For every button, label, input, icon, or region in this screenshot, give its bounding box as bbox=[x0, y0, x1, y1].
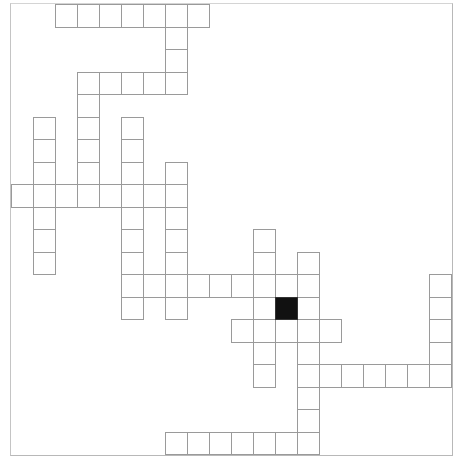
grid-cell[interactable] bbox=[341, 364, 364, 388]
grid-cell[interactable] bbox=[297, 364, 320, 388]
grid-cell[interactable] bbox=[429, 342, 452, 365]
grid-cell[interactable] bbox=[121, 72, 144, 95]
grid-cell[interactable] bbox=[297, 252, 320, 275]
grid-cell[interactable] bbox=[121, 4, 144, 28]
grid-cell[interactable] bbox=[231, 432, 254, 455]
grid-cell[interactable] bbox=[165, 72, 188, 95]
grid-cell[interactable] bbox=[253, 229, 276, 253]
grid-cell[interactable] bbox=[33, 207, 56, 230]
grid-cell[interactable] bbox=[253, 432, 276, 455]
grid-cell[interactable] bbox=[33, 252, 56, 275]
grid-cell[interactable] bbox=[121, 297, 144, 320]
crossword-grid bbox=[0, 0, 459, 466]
grid-cell[interactable] bbox=[143, 72, 166, 95]
grid-cell[interactable] bbox=[121, 207, 144, 230]
grid-cell[interactable] bbox=[77, 139, 100, 163]
grid-cell[interactable] bbox=[99, 72, 122, 95]
grid-cell[interactable] bbox=[297, 432, 320, 455]
grid-cell[interactable] bbox=[297, 274, 320, 298]
grid-cell[interactable] bbox=[33, 117, 56, 140]
grid-cell[interactable] bbox=[143, 4, 166, 28]
grid-cell[interactable] bbox=[33, 229, 56, 253]
grid-cell[interactable] bbox=[77, 117, 100, 140]
grid-cell[interactable] bbox=[319, 319, 342, 343]
grid-cell[interactable] bbox=[429, 274, 452, 298]
grid-cell[interactable] bbox=[55, 184, 78, 208]
grid-cell[interactable] bbox=[121, 229, 144, 253]
grid-cell[interactable] bbox=[55, 4, 78, 28]
grid-cell[interactable] bbox=[253, 252, 276, 275]
grid-cell[interactable] bbox=[253, 364, 276, 388]
grid-cell[interactable] bbox=[187, 432, 210, 455]
grid-cell[interactable] bbox=[121, 162, 144, 185]
grid-cell[interactable] bbox=[297, 297, 320, 320]
grid-cell[interactable] bbox=[253, 342, 276, 365]
grid-cell[interactable] bbox=[363, 364, 386, 388]
grid-cell[interactable] bbox=[165, 49, 188, 73]
grid-cell[interactable] bbox=[143, 274, 166, 298]
grid-cell[interactable] bbox=[33, 184, 56, 208]
grid-cell[interactable] bbox=[165, 207, 188, 230]
grid-cell[interactable] bbox=[429, 297, 452, 320]
grid-cell[interactable] bbox=[319, 364, 342, 388]
grid-cell[interactable] bbox=[187, 274, 210, 298]
grid-cell[interactable] bbox=[429, 319, 452, 343]
grid-cell[interactable] bbox=[77, 4, 100, 28]
grid-cell[interactable] bbox=[253, 319, 276, 343]
grid-cell[interactable] bbox=[33, 139, 56, 163]
grid-cell[interactable] bbox=[209, 432, 232, 455]
grid-cell[interactable] bbox=[165, 162, 188, 185]
grid-cell[interactable] bbox=[99, 184, 122, 208]
grid-cell[interactable] bbox=[253, 274, 276, 298]
grid-cell[interactable] bbox=[121, 139, 144, 163]
grid-cell[interactable] bbox=[77, 94, 100, 118]
grid-cell[interactable] bbox=[77, 72, 100, 95]
grid-cell[interactable] bbox=[165, 252, 188, 275]
grid-cell[interactable] bbox=[209, 274, 232, 298]
grid-cell[interactable] bbox=[143, 184, 166, 208]
grid-cell[interactable] bbox=[77, 162, 100, 185]
grid-cell[interactable] bbox=[121, 117, 144, 140]
black-square bbox=[275, 297, 298, 320]
grid-cell[interactable] bbox=[165, 432, 188, 455]
grid-cell[interactable] bbox=[165, 297, 188, 320]
grid-cell[interactable] bbox=[385, 364, 408, 388]
grid-cell[interactable] bbox=[99, 4, 122, 28]
grid-cell[interactable] bbox=[165, 229, 188, 253]
grid-cell[interactable] bbox=[11, 184, 34, 208]
grid-cell[interactable] bbox=[297, 342, 320, 365]
grid-cell[interactable] bbox=[275, 432, 298, 455]
grid-cell[interactable] bbox=[297, 409, 320, 433]
grid-cell[interactable] bbox=[275, 319, 298, 343]
grid-cell[interactable] bbox=[297, 319, 320, 343]
grid-cell[interactable] bbox=[275, 274, 298, 298]
grid-cell[interactable] bbox=[297, 387, 320, 410]
grid-cell[interactable] bbox=[165, 27, 188, 50]
grid-cell[interactable] bbox=[121, 184, 144, 208]
grid-cell[interactable] bbox=[429, 364, 452, 388]
grid-cell[interactable] bbox=[253, 297, 276, 320]
grid-cell[interactable] bbox=[165, 184, 188, 208]
grid-cell[interactable] bbox=[231, 274, 254, 298]
grid-cell[interactable] bbox=[121, 252, 144, 275]
grid-cell[interactable] bbox=[165, 274, 188, 298]
grid-cell[interactable] bbox=[77, 184, 100, 208]
grid-cell[interactable] bbox=[407, 364, 430, 388]
grid-cell[interactable] bbox=[121, 274, 144, 298]
grid-cell[interactable] bbox=[33, 162, 56, 185]
grid-cell[interactable] bbox=[165, 4, 188, 28]
grid-cell[interactable] bbox=[231, 319, 254, 343]
grid-cell[interactable] bbox=[187, 4, 210, 28]
